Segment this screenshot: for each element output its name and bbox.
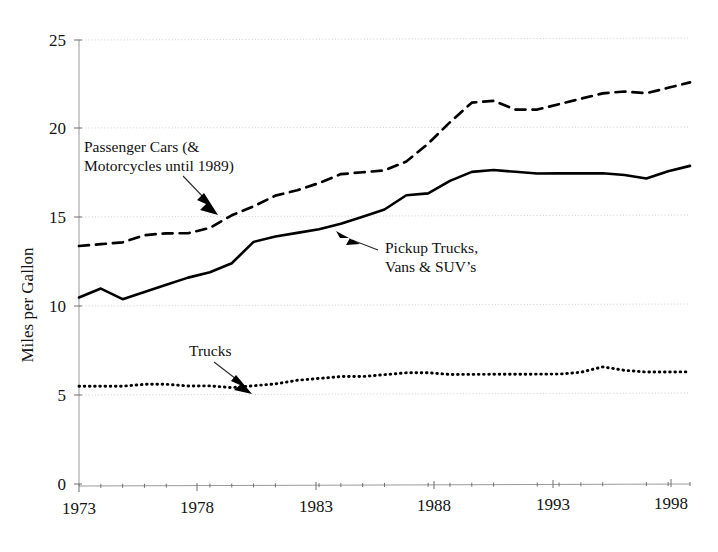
x-tick-label-1983: 1983 [299, 497, 333, 516]
y-tick-label-5: 5 [58, 386, 67, 405]
x-tick-label-1988: 1988 [417, 496, 451, 515]
y-tick-label-0: 0 [58, 475, 67, 494]
annotation-pickup-trucks-line1: Pickup Trucks, [385, 239, 478, 256]
chart-canvas: 25 20 15 10 5 0 1973 1978 1983 1988 1993… [0, 0, 718, 552]
y-axis-title: Miles per Gallon [18, 247, 37, 363]
fuel-economy-line-chart: 25 20 15 10 5 0 1973 1978 1983 1988 1993… [0, 0, 718, 552]
annotation-trucks-line1: Trucks [189, 342, 232, 359]
annotation-passenger-cars-line2: Motorcycles until 1989) [84, 157, 234, 175]
x-tick-label-1993: 1993 [536, 495, 570, 514]
x-tick-label-1973: 1973 [62, 499, 96, 518]
x-tick-label-1978: 1978 [180, 498, 214, 517]
y-tick-label-25: 25 [49, 31, 66, 50]
chart-background [0, 0, 718, 552]
chart-page: { "figure": { "background": "#ffffff", "… [0, 0, 718, 552]
y-tick-label-10: 10 [49, 297, 66, 316]
annotation-pickup-trucks-line2: Vans & SUV’s [385, 258, 476, 275]
x-tick-label-1998: 1998 [654, 494, 688, 513]
y-tick-label-20: 20 [49, 119, 66, 138]
y-tick-label-15: 15 [49, 208, 66, 227]
annotation-passenger-cars-line1: Passenger Cars (& [84, 138, 199, 156]
